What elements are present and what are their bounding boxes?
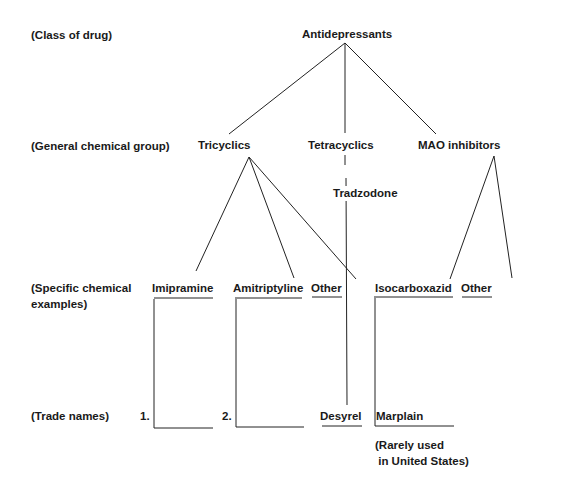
node-mao-other: Other xyxy=(461,281,492,296)
node-tricyclics: Tricyclics xyxy=(198,138,250,153)
node-isocarboxazid: Isocarboxazid xyxy=(375,281,452,296)
level-label-trade: (Trade names) xyxy=(31,409,109,424)
node-tetracyclics: Tetracyclics xyxy=(308,138,374,153)
trade-slot-1: 1. xyxy=(140,409,150,424)
node-imipramine: Imipramine xyxy=(152,281,213,296)
trade-marplain: Marplain xyxy=(376,409,423,424)
note-rarely-used-2: in United States) xyxy=(375,454,469,469)
level-label-specific-1: (Specific chemical xyxy=(31,281,131,296)
node-tradzodone: Tradzodone xyxy=(333,186,398,201)
level-label-specific-2: examples) xyxy=(31,297,87,312)
node-mao-inhibitors: MAO inhibitors xyxy=(418,138,500,153)
node-amitriptyline: Amitriptyline xyxy=(233,281,303,296)
level-label-class: (Class of drug) xyxy=(31,28,112,43)
trade-desyrel: Desyrel xyxy=(320,409,362,424)
level-label-group: (General chemical group) xyxy=(31,139,170,154)
trade-slot-2: 2. xyxy=(222,409,232,424)
note-rarely-used-1: (Rarely used xyxy=(375,438,444,453)
node-tricyclic-other: Other xyxy=(311,281,342,296)
node-antidepressants: Antidepressants xyxy=(302,27,392,42)
